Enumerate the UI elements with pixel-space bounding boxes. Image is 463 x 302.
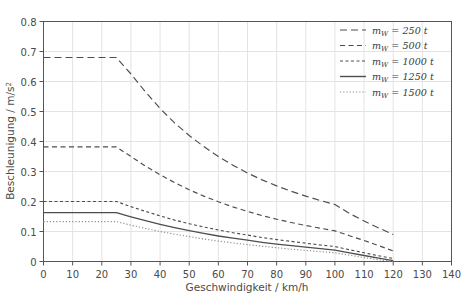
x-tick-label: 110: [355, 269, 374, 280]
x-tick-label: 130: [413, 269, 432, 280]
x-tick-label: 30: [125, 269, 138, 280]
y-axis-title: Beschleunigung / m/s2: [4, 82, 16, 200]
x-tick-label: 0: [40, 269, 46, 280]
x-tick-label: 10: [66, 269, 79, 280]
x-tick-label: 120: [384, 269, 403, 280]
y-tick-label: 0.5: [21, 107, 37, 118]
y-tick-label: 0: [30, 257, 36, 268]
y-tick-label: 0.3: [21, 167, 37, 178]
x-tick-label: 90: [299, 269, 312, 280]
x-tick-label: 70: [241, 269, 254, 280]
y-tick-label: 0.8: [21, 17, 37, 28]
x-tick-label: 100: [325, 269, 344, 280]
x-tick-label: 80: [270, 269, 283, 280]
x-tick-labels: 0102030405060708090100110120130140: [40, 269, 461, 280]
x-tick-label: 20: [95, 269, 108, 280]
y-tick-label: 0.6: [21, 77, 37, 88]
x-tick-label: 60: [212, 269, 225, 280]
acceleration-speed-chart: 0102030405060708090100110120130140 00.10…: [0, 0, 463, 302]
x-tick-label: 140: [442, 269, 461, 280]
x-tick-label: 40: [154, 269, 167, 280]
x-tick-label: 50: [183, 269, 196, 280]
y-tick-label: 0.2: [21, 197, 37, 208]
y-tick-label: 0.1: [21, 227, 37, 238]
y-tick-labels: 00.10.20.30.40.50.60.70.8: [21, 17, 37, 268]
y-tick-label: 0.4: [21, 137, 37, 148]
x-axis-title: Geschwindigkeit / km/h: [186, 281, 309, 293]
y-tick-label: 0.7: [21, 47, 37, 58]
